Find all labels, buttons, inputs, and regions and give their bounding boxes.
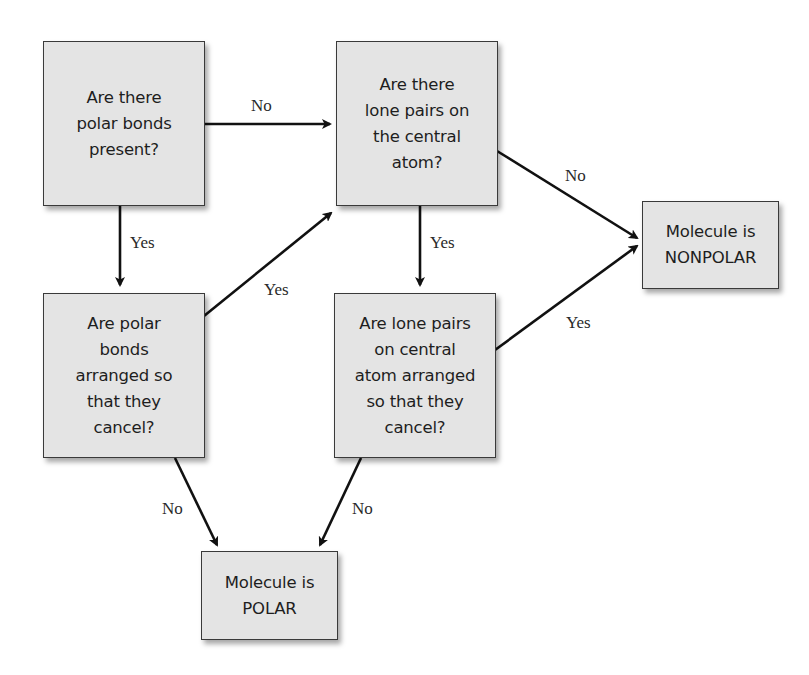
edge-label-q3-q2: Yes: [264, 281, 289, 298]
node-lone-pairs-cancel: Are lone pairs on central atom arranged …: [334, 293, 496, 458]
node-lone-pairs-central-atom: Are there lone pairs on the central atom…: [336, 41, 498, 206]
node-polar-bonds-present: Are there polar bonds present?: [43, 41, 205, 206]
edge-label-q3-polar: No: [162, 500, 183, 517]
edge-label-q2-q4: Yes: [430, 234, 455, 251]
edge-label-q1-q3: Yes: [130, 234, 155, 251]
arrow-q4-to-nonpolar: [495, 246, 637, 350]
node-molecule-polar: Molecule is POLAR: [201, 551, 338, 640]
edge-label-q4-polar: No: [352, 500, 373, 517]
polarity-flowchart: Are there polar bonds present? Are there…: [0, 0, 809, 675]
arrow-q3-to-q2: [204, 213, 331, 316]
edge-label-q1-q2: No: [251, 97, 272, 114]
arrow-q2-to-nonpolar: [497, 151, 637, 238]
node-molecule-nonpolar: Molecule is NONPOLAR: [642, 201, 779, 289]
node-polar-bonds-cancel: Are polar bonds arranged so that they ca…: [43, 293, 205, 458]
edge-label-q2-nonpolar: No: [565, 167, 586, 184]
edge-label-q4-nonpolar: Yes: [566, 314, 591, 331]
